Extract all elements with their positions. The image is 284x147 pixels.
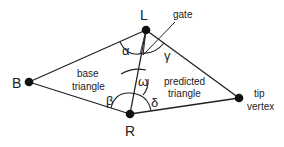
gate-label: gate [173,9,193,20]
tip-label-2: vertex [247,101,274,112]
vertex-R [126,110,135,119]
alpha-label: α [122,43,130,58]
tip-label-1: tip [254,88,265,99]
beta-arc [111,93,130,108]
edge-L-R-gate [130,30,146,114]
beta-label: β [106,93,113,108]
vertex-B-label: B [12,75,21,91]
pred-label-1: predicted [164,76,205,87]
gamma-label: γ [164,48,171,63]
base-label-2: triangle [72,81,105,92]
delta-label: δ [151,95,158,110]
vertex-R-label: R [125,123,135,139]
base-label-1: base [77,68,99,79]
vertex-tip [235,94,244,103]
triangle-diagram: L R B tip vertex gate base triangle pred… [0,0,284,147]
vertex-B [25,78,34,87]
vertex-L [142,26,151,35]
vertex-L-label: L [140,7,148,23]
pred-label-2: triangle [168,88,201,99]
omega-label: ω [138,74,148,89]
